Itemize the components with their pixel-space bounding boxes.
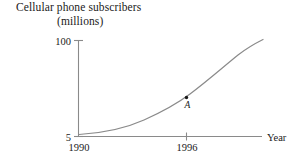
x-axis-title: Year bbox=[267, 132, 287, 143]
data-point-a-marker bbox=[185, 96, 188, 99]
data-point-a-label: A bbox=[184, 100, 191, 110]
x-axis-tick-label-1996: 1996 bbox=[177, 142, 198, 153]
chart-figure: Cellular phone subscribers (millions) 10… bbox=[0, 0, 294, 153]
chart-plot-area: 100 5 1990 1996 Year A bbox=[0, 0, 294, 153]
y-axis-origin-label: 5 bbox=[66, 132, 71, 143]
x-axis-tick-label-1990: 1990 bbox=[69, 142, 90, 153]
y-axis-tick-label-100: 100 bbox=[55, 36, 71, 47]
data-curve-subscribers bbox=[79, 40, 263, 135]
